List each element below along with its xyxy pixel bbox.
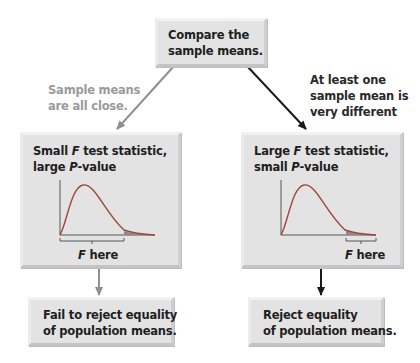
right-annotation: At least one sample mean is very differe… [310,72,408,120]
right-f-here-label: F here [345,247,385,263]
compare-means-box: Compare the sample means. [155,18,267,67]
fail-to-reject-box: Fail to reject equality of population me… [28,297,174,346]
reject-line2: of population means. [263,323,397,339]
left-f-here-label: F here [78,247,118,263]
large-f-statistic-box: Large F test statistic, small P-value F … [241,132,403,268]
left-annotation-line1: Sample means [48,82,140,98]
left-annotation: Sample means are all close. [48,82,140,114]
compare-line1: Compare the [168,27,249,43]
small-f-statistic-box: Small F test statistic, large P-value F … [20,132,181,268]
right-annotation-line3: very different [310,104,408,120]
arrow-to-right-branch [247,66,306,129]
reject-line1: Reject equality [263,307,358,323]
reject-equality-box: Reject equality of population means. [248,297,384,346]
fail-line1: Fail to reject equality [43,307,177,323]
right-annotation-line2: sample mean is [310,88,408,104]
fail-line2: of population means. [43,323,177,339]
left-annotation-line2: are all close. [48,98,140,114]
compare-line2: sample means. [168,43,263,59]
right-annotation-line1: At least one [310,72,408,88]
